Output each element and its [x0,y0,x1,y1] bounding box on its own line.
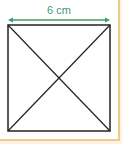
square-diagram [0,0,122,144]
dimension-arrow [8,18,110,23]
arrowhead-right-icon [105,18,110,23]
arrowhead-left-icon [8,18,13,23]
